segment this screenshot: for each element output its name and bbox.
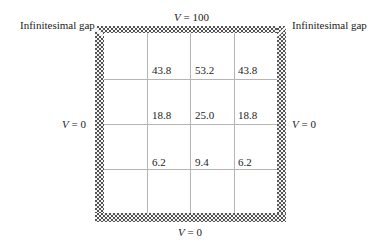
right-electrode	[277, 26, 286, 222]
cell-r3-c2: 6.2	[152, 156, 166, 168]
top-boundary-label: V = 100	[174, 11, 209, 23]
cell-r2-c3: 25.0	[195, 109, 214, 121]
bottom-boundary-label: V = 0	[178, 226, 202, 238]
right-boundary-label: V = 0	[292, 118, 316, 130]
top-boundary-symbol: V	[174, 11, 181, 23]
top-electrode	[95, 26, 286, 33]
right-boundary-value: = 0	[301, 118, 315, 130]
left-boundary-symbol: V	[62, 118, 69, 130]
bottom-electrode	[95, 213, 286, 222]
grid-line-h3	[104, 169, 277, 170]
gap-label-right: Infinitesimal gap	[292, 19, 367, 31]
cell-r3-c4: 6.2	[238, 156, 252, 168]
cell-r1-c2: 43.8	[152, 64, 171, 76]
grid-line-v3	[234, 33, 235, 213]
cell-r1-c3: 53.2	[195, 64, 214, 76]
cell-r2-c4: 18.8	[238, 109, 257, 121]
top-boundary-value: = 100	[183, 11, 208, 23]
bottom-boundary-value: = 0	[187, 226, 201, 238]
left-boundary-label: V = 0	[62, 118, 86, 130]
cell-r3-c3: 9.4	[195, 156, 209, 168]
right-boundary-symbol: V	[292, 118, 299, 130]
grid-line-v2	[190, 33, 191, 213]
left-electrode	[95, 26, 104, 222]
bottom-boundary-symbol: V	[178, 226, 185, 238]
cell-r2-c2: 18.8	[152, 109, 171, 121]
grid-line-v1	[147, 33, 148, 213]
grid-line-h1	[104, 79, 277, 80]
grid-line-h2	[104, 124, 277, 125]
gap-label-left: Infinitesimal gap	[20, 19, 95, 31]
left-boundary-value: = 0	[71, 118, 85, 130]
cell-r1-c4: 43.8	[238, 64, 257, 76]
